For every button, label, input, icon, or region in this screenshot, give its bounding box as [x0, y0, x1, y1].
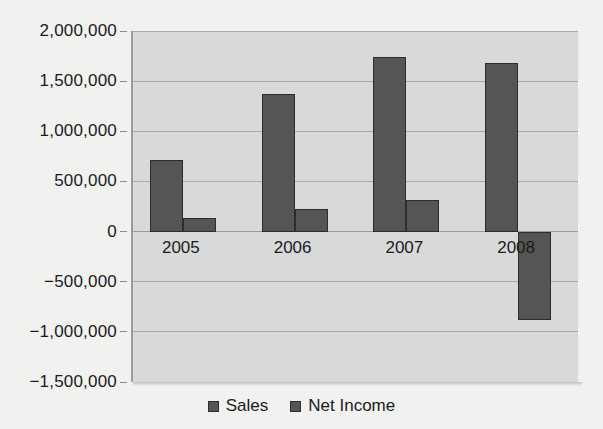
bar-sales-2007 — [373, 57, 406, 232]
y-axis: 2,000,0001,500,0001,000,000500,0000−500,… — [0, 0, 131, 429]
plot-area-shadow — [133, 382, 582, 386]
legend-swatch-net-income — [290, 401, 301, 412]
y-axis-tick-mark — [120, 231, 127, 232]
legend-label: Sales — [226, 396, 269, 416]
x-axis-label-2008: 2008 — [497, 238, 535, 258]
gridline — [133, 281, 578, 282]
y-axis-tick-label: −500,000 — [44, 272, 117, 292]
bar-sales-2008 — [485, 63, 518, 231]
x-axis-label-2007: 2007 — [385, 238, 423, 258]
legend-label: Net Income — [308, 396, 395, 416]
y-axis-tick-label: 0 — [107, 222, 117, 242]
y-axis-tick-mark — [120, 382, 127, 383]
bar-sales-2006 — [262, 94, 295, 231]
bar-sales-2005 — [150, 160, 183, 231]
y-axis-tick-label: 500,000 — [54, 171, 117, 191]
bar-chart: 2,000,0001,500,0001,000,000500,0000−500,… — [0, 0, 603, 429]
y-axis-tick-mark — [120, 331, 127, 332]
chart-legend: SalesNet Income — [0, 396, 603, 416]
x-axis-label-2006: 2006 — [274, 238, 312, 258]
gridline — [133, 31, 578, 32]
legend-swatch-sales — [208, 401, 219, 412]
y-axis-tick-label: 1,000,000 — [40, 121, 117, 141]
y-axis-tick-label: −1,500,000 — [29, 372, 117, 392]
y-axis-tick-label: 2,000,000 — [40, 21, 117, 41]
legend-item-net-income[interactable]: Net Income — [290, 396, 395, 416]
y-axis-tick-label: 1,500,000 — [40, 71, 117, 91]
gridline — [133, 331, 578, 332]
y-axis-tick-mark — [120, 31, 127, 32]
y-axis-tick-mark — [120, 281, 127, 282]
legend-item-sales[interactable]: Sales — [208, 396, 269, 416]
bar-net-income-2005 — [183, 218, 216, 232]
y-axis-tick-mark — [120, 181, 127, 182]
y-axis-tick-mark — [120, 81, 127, 82]
y-axis-tick-mark — [120, 131, 127, 132]
x-axis-label-2005: 2005 — [162, 238, 200, 258]
bar-net-income-2007 — [406, 200, 439, 231]
plot-area — [131, 31, 578, 382]
bar-net-income-2006 — [295, 209, 328, 232]
y-axis-tick-label: −1,000,000 — [29, 322, 117, 342]
